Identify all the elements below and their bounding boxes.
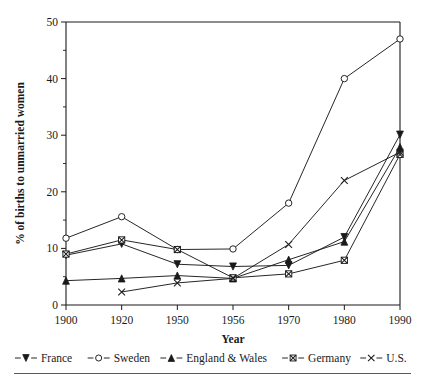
y-tick-label: 40 <box>47 73 59 85</box>
x-axis-title: Year <box>222 333 245 345</box>
x-tick-label: 1990 <box>389 314 412 326</box>
x-tick-label: 1950 <box>166 314 189 326</box>
legend-item-france[interactable]: France <box>15 352 72 364</box>
marker-filled-down-triangle <box>397 131 404 138</box>
marker-filled-down-triangle <box>23 355 29 362</box>
legend-label: France <box>41 352 72 364</box>
marker-x <box>341 177 348 184</box>
x-tick-label: 1920 <box>110 314 133 326</box>
series-u-s <box>118 149 403 296</box>
series-sweden <box>63 36 403 253</box>
marker-open-circle <box>63 235 69 241</box>
legend-item-sweden[interactable]: Sweden <box>88 352 151 364</box>
marker-x <box>368 355 374 361</box>
y-tick-label: 10 <box>47 242 59 254</box>
legend-label: England & Wales <box>186 352 267 365</box>
series-line <box>66 154 400 277</box>
series-line <box>66 147 400 281</box>
y-axis-title: % of births to unmarried women <box>14 82 26 245</box>
legend-label: U.S. <box>386 352 407 364</box>
marker-open-circle <box>230 246 236 252</box>
series-line <box>66 39 400 250</box>
marker-filled-up-triangle <box>285 256 292 263</box>
marker-filled-up-triangle <box>341 238 348 245</box>
marker-open-circle <box>341 75 347 81</box>
series-line <box>122 152 400 292</box>
legend-item-u-s[interactable]: U.S. <box>360 352 407 364</box>
marker-open-circle <box>118 214 124 220</box>
series-germany <box>63 151 403 281</box>
marker-x <box>285 241 292 248</box>
marker-filled-up-triangle <box>168 355 174 362</box>
marker-open-circle <box>285 200 291 206</box>
chart-figure: 010203040501900192019501956197019801990Y… <box>0 0 425 382</box>
x-tick-label: 1900 <box>55 314 78 326</box>
footer-divider <box>14 373 411 374</box>
y-tick-label: 0 <box>52 299 58 311</box>
legend-item-germany[interactable]: Germany <box>282 352 351 365</box>
marker-open-circle <box>397 36 403 42</box>
marker-open-circle <box>96 355 102 361</box>
line-chart: 010203040501900192019501956197019801990Y… <box>0 0 425 382</box>
y-tick-label: 50 <box>47 16 59 28</box>
x-tick-label: 1980 <box>333 314 356 326</box>
legend-label: Germany <box>308 352 351 365</box>
legend-label: Sweden <box>114 352 151 364</box>
x-tick-label: 1956 <box>222 314 245 326</box>
x-tick-label: 1970 <box>277 314 300 326</box>
legend-item-england-wales[interactable]: England & Wales <box>160 352 267 365</box>
y-tick-label: 30 <box>47 129 59 141</box>
y-tick-label: 20 <box>47 186 59 198</box>
